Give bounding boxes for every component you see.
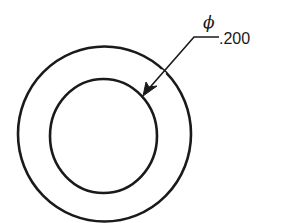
inner-circle xyxy=(50,79,157,193)
concentric-circles-diagram: ϕ .200 xyxy=(0,0,282,223)
dimension-leader xyxy=(143,37,219,96)
arrowhead-icon xyxy=(143,82,157,96)
diameter-symbol: ϕ xyxy=(203,12,215,32)
dimension-value: .200 xyxy=(219,30,250,47)
